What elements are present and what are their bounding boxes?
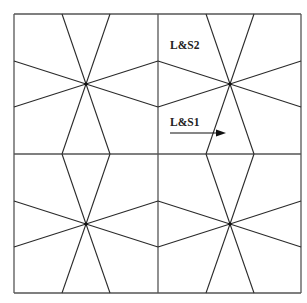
spoke-line — [86, 14, 110, 84]
spoke-line — [230, 224, 254, 293]
spoke-line — [158, 224, 230, 247]
spoke-line — [62, 224, 86, 293]
spoke-line — [86, 84, 158, 107]
spoke-line — [62, 154, 86, 224]
star-bottom-right — [158, 154, 301, 293]
star-center-dot — [228, 222, 231, 225]
spoke-line — [86, 201, 158, 224]
star-center-dot — [84, 222, 87, 225]
grid-lines — [14, 14, 301, 293]
spoke-line — [230, 61, 301, 84]
spoke-line — [86, 61, 158, 84]
spoke-line — [230, 84, 254, 154]
spoke-line — [158, 84, 230, 107]
spoke-line — [14, 201, 86, 224]
spoke-line — [62, 84, 86, 154]
spoke-line — [206, 224, 230, 293]
spoke-line — [230, 154, 254, 224]
spoke-line — [158, 61, 230, 84]
spoke-line — [206, 14, 230, 84]
spoke-line — [14, 84, 86, 107]
spoke-line — [86, 154, 110, 224]
star-center-dot — [228, 82, 231, 85]
arrow-icon — [170, 130, 226, 137]
spoke-line — [14, 61, 86, 84]
spoke-line — [86, 84, 110, 154]
star-center-dot — [84, 82, 87, 85]
spoke-line — [14, 224, 86, 247]
star-bottom-left — [14, 154, 158, 293]
spoke-line — [230, 84, 301, 107]
spoke-line — [86, 224, 110, 293]
spoke-line — [86, 224, 158, 247]
spoke-line — [158, 201, 230, 224]
spoke-line — [230, 14, 254, 84]
spoke-line — [62, 14, 86, 84]
star-lattice-diagram: L&S2 L&S1 — [0, 0, 307, 303]
spoke-line — [230, 224, 301, 247]
label-ls1: L&S1 — [170, 116, 200, 128]
spoke-line — [230, 201, 301, 224]
label-ls2: L&S2 — [170, 39, 200, 51]
spoke-line — [206, 84, 230, 154]
spoke-line — [206, 154, 230, 224]
star-top-left — [14, 14, 158, 154]
